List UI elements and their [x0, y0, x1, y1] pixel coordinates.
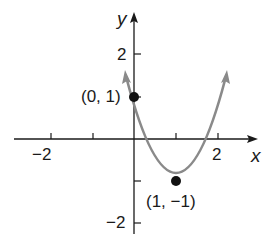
x-tick-label-neg2: −2	[32, 146, 51, 163]
point-0-1	[129, 92, 139, 102]
point-label-1-neg1: (1, −1)	[146, 193, 196, 210]
x-axis	[14, 133, 258, 143]
parabola-plot	[0, 0, 266, 237]
x-tick-label-2: 2	[212, 146, 221, 163]
y-tick-label-2: 2	[117, 46, 126, 63]
x-axis-label: x	[251, 146, 261, 165]
point-label-0-1: (0, 1)	[81, 88, 121, 105]
parabola-curve	[127, 80, 225, 173]
point-1-neg1	[171, 176, 181, 186]
y-axis-label: y	[117, 9, 127, 28]
y-tick-label-neg2: −2	[106, 214, 125, 231]
